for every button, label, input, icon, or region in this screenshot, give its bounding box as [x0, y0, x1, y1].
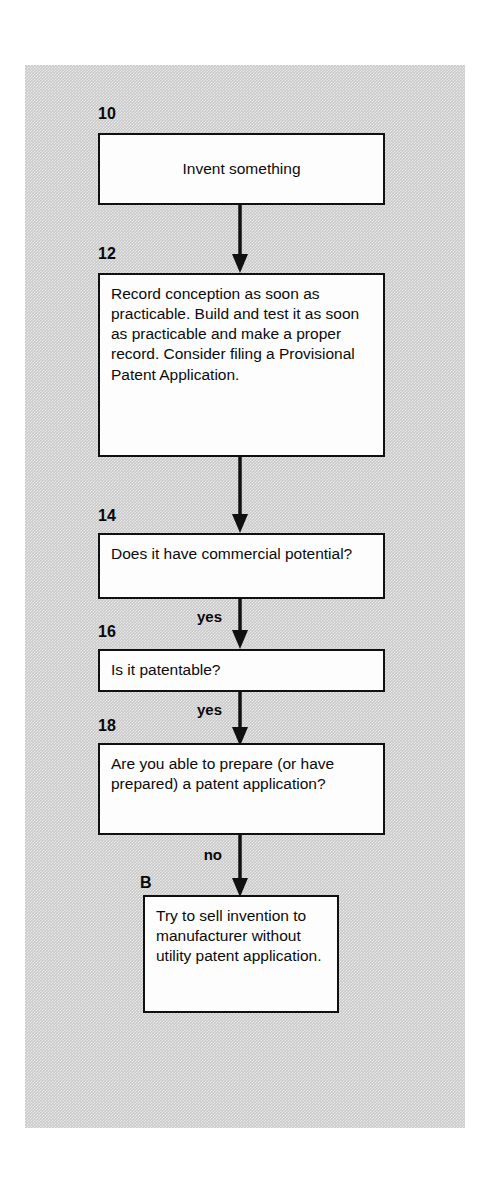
- connector-18-to-b: [227, 835, 253, 897]
- node-try-to-sell-invention-text: Try to sell invention to manufacturer wi…: [156, 906, 327, 966]
- figure-page: 10 Invent something 12 Record conception…: [0, 0, 489, 1177]
- node-commercial-potential[interactable]: Does it have commercial potential?: [98, 533, 385, 599]
- node-commercial-potential-text: Does it have commercial potential?: [111, 544, 373, 564]
- reference-numeral-b: B: [140, 875, 152, 891]
- node-is-it-patentable-text: Is it patentable?: [111, 660, 373, 680]
- reference-numeral-16: 16: [98, 624, 116, 640]
- edge-label-18-to-b: no: [160, 847, 222, 862]
- node-invent-something-text: Invent something: [182, 159, 300, 179]
- reference-numeral-10: 10: [98, 106, 116, 122]
- connector-14-to-16: [227, 599, 253, 649]
- edge-label-14-to-16: yes: [160, 609, 222, 624]
- node-able-to-prepare-application[interactable]: Are you able to prepare (or have prepare…: [98, 743, 385, 835]
- node-able-to-prepare-application-text: Are you able to prepare (or have prepare…: [111, 754, 373, 794]
- arrow-down-icon: [227, 692, 253, 746]
- connector-16-to-18: [227, 692, 253, 746]
- edge-label-16-to-18: yes: [160, 702, 222, 717]
- connector-10-to-12: [227, 205, 253, 273]
- reference-numeral-14: 14: [98, 508, 116, 524]
- reference-numeral-12: 12: [98, 246, 116, 262]
- arrow-down-icon: [227, 835, 253, 897]
- node-record-conception[interactable]: Record conception as soon as practicable…: [98, 273, 385, 457]
- node-is-it-patentable[interactable]: Is it patentable?: [98, 649, 385, 692]
- node-invent-something[interactable]: Invent something: [98, 133, 385, 205]
- reference-numeral-18: 18: [98, 718, 116, 734]
- connector-12-to-14: [227, 457, 253, 533]
- node-record-conception-text: Record conception as soon as practicable…: [111, 284, 373, 385]
- arrow-down-icon: [227, 457, 253, 533]
- node-try-to-sell-invention[interactable]: Try to sell invention to manufacturer wi…: [143, 895, 339, 1013]
- arrow-down-icon: [227, 599, 253, 649]
- arrow-down-icon: [227, 205, 253, 273]
